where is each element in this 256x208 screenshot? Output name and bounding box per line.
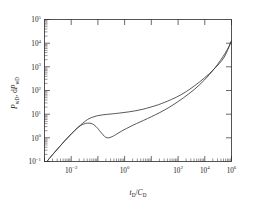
y-tick-label-2: 101 (31, 110, 41, 119)
y-tick-label-1: 100 (31, 133, 41, 142)
y-axis-right-ticks (226, 43, 232, 138)
y-tick-label-5: 104 (31, 39, 41, 48)
x-axis-minor-ticks (53, 159, 231, 162)
x-axis-title: tD/CD (130, 188, 147, 198)
y-tick-label-3: 102 (31, 86, 41, 95)
data-curves (47, 40, 232, 161)
chart-canvas: 10−2 100 102 104 104 106 10−1 100 101 10… (0, 0, 256, 208)
y-tick-label-0: 10−1 (29, 157, 42, 166)
curve-derivative (47, 41, 232, 161)
x-tick-label-4: 104 (200, 165, 210, 174)
curve-pressure (47, 40, 232, 161)
x-tick-label-2: 102 (173, 165, 183, 174)
y-axis-minor-ticks (45, 21, 48, 155)
x-tick-label-0: 10−2 (65, 165, 78, 174)
x-tick-label-5: 106 (227, 165, 237, 174)
x-axis-top-ticks (71, 20, 231, 26)
x-tick-label-1: 100 (120, 165, 130, 174)
x-tick-labels: 10−2 100 102 104 104 106 (65, 165, 237, 174)
y-tick-label-6: 105 (31, 15, 41, 24)
y-tick-labels: 10−1 100 101 102 103 104 105 (29, 15, 42, 166)
plot-frame (45, 20, 232, 162)
chart-figure: 10−2 100 102 104 104 106 10−1 100 101 10… (0, 0, 256, 208)
y-axis-title: PwD, dPwD (10, 77, 20, 110)
y-tick-label-4: 103 (31, 62, 41, 71)
